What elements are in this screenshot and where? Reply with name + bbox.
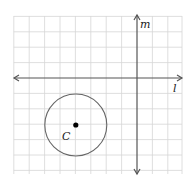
center-point [73, 122, 78, 127]
line-l [14, 75, 182, 81]
label-c: C [62, 130, 71, 143]
label-l: l [173, 82, 177, 95]
coordinate-diagram: m l C [0, 0, 191, 186]
grid [14, 16, 182, 174]
line-m [134, 15, 140, 174]
label-m: m [140, 18, 150, 31]
